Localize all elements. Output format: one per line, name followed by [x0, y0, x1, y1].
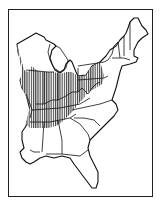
- eastern-us-range-map: [0, 0, 162, 205]
